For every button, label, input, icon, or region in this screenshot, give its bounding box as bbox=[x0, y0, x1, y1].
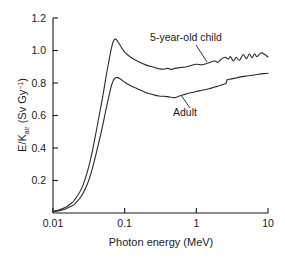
x-tick-label: 0.1 bbox=[117, 217, 132, 229]
y-tick-label: 0.6 bbox=[31, 109, 46, 121]
x-tick-label: 10 bbox=[262, 217, 274, 229]
adult-annotation-label: Adult bbox=[173, 106, 197, 118]
y-tick-label: 0.8 bbox=[31, 77, 46, 89]
x-tick-label: 0.01 bbox=[43, 217, 64, 229]
y-tick-label: 0.2 bbox=[31, 174, 46, 186]
child-annotation-label: 5-year-old child bbox=[150, 31, 222, 43]
y-tick-label: 1.0 bbox=[31, 44, 46, 56]
y-tick-label: 1.2 bbox=[31, 12, 46, 24]
y-tick-label: 0.4 bbox=[31, 142, 46, 154]
x-tick-label: 1 bbox=[193, 217, 199, 229]
line-chart: 0.20.40.60.81.01.2 0.010.1110 5-year-old… bbox=[0, 0, 285, 260]
x-axis-title: Photon energy (MeV) bbox=[109, 236, 214, 248]
chart-figure: 0.20.40.60.81.01.2 0.010.1110 5-year-old… bbox=[0, 0, 285, 260]
